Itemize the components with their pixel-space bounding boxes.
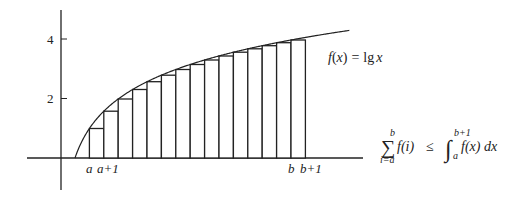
x-label-b: b <box>288 161 295 176</box>
bar <box>118 99 132 158</box>
bar <box>262 46 276 158</box>
sum-integral-bound-diagram: 4 2 a a+1 b b+1 f(x)=lgx b ∑ i=a f(i) ≤ … <box>0 0 517 197</box>
integral-symbol: ∫ <box>443 136 453 164</box>
bar-group <box>89 40 305 158</box>
bar <box>277 43 291 158</box>
y-tick-label-4: 4 <box>47 32 54 47</box>
bar <box>147 82 161 158</box>
bar <box>89 129 103 159</box>
bar <box>205 60 219 158</box>
bar <box>133 90 147 159</box>
bar <box>161 75 175 158</box>
bar <box>248 49 262 158</box>
y-tick-label-2: 2 <box>47 91 54 106</box>
integrand: f(x) dx <box>461 139 498 155</box>
bar <box>291 40 305 158</box>
integral-lower-limit: a <box>453 150 458 161</box>
x-label-a-plus-1: a+1 <box>97 161 119 176</box>
bar <box>104 111 118 158</box>
bar <box>176 70 190 159</box>
integral-upper-limit: b+1 <box>454 127 471 138</box>
bar <box>233 52 247 158</box>
leq-symbol: ≤ <box>426 139 434 154</box>
function-label: f(x)=lgx <box>328 50 383 66</box>
sum-integral-inequality: b ∑ i=a f(i) ≤ ∫ b+1 a f(x) dx <box>380 127 498 165</box>
x-label-b-plus-1: b+1 <box>300 161 322 176</box>
bar <box>219 56 233 158</box>
x-label-a: a <box>86 161 93 176</box>
summand: f(i) <box>397 139 414 155</box>
sum-lower-limit: i=a <box>380 154 395 165</box>
bar <box>190 65 204 159</box>
